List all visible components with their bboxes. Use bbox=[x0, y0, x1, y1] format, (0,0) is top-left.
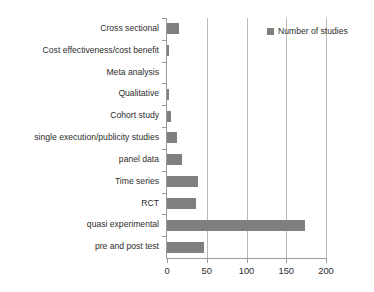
y-axis-tick-label: Cross sectional bbox=[100, 18, 159, 40]
x-axis-tick-label: 50 bbox=[202, 265, 212, 276]
x-axis-tick-label: 200 bbox=[318, 265, 334, 276]
legend-swatch-number-of-studies bbox=[267, 28, 274, 35]
bar-row bbox=[167, 40, 326, 62]
bar bbox=[167, 111, 171, 122]
plot-area bbox=[167, 18, 326, 258]
bar bbox=[167, 154, 182, 165]
y-axis-tick-label: panel data bbox=[119, 149, 159, 171]
y-axis-tick-labels: Cross sectionalCost effectiveness/cost b… bbox=[0, 18, 163, 258]
gridline bbox=[326, 18, 327, 258]
bar-row bbox=[167, 149, 326, 171]
y-axis-tick-label: quasi experimental bbox=[87, 214, 159, 236]
y-axis-tick-label: Qualitative bbox=[118, 83, 159, 105]
bar bbox=[167, 89, 169, 100]
bar-row bbox=[167, 127, 326, 149]
x-axis-tick-label: 150 bbox=[278, 265, 294, 276]
x-axis-tick-label: 0 bbox=[164, 265, 169, 276]
y-axis-tick-label: Cost effectiveness/cost benefit bbox=[43, 40, 159, 62]
y-axis-tick-label: single execution/publicity studies bbox=[34, 127, 159, 149]
y-axis-tick-label: Time series bbox=[115, 171, 159, 193]
x-axis-tick bbox=[207, 259, 208, 263]
legend: Number of studies bbox=[267, 26, 348, 36]
bar bbox=[167, 23, 179, 34]
bar-chart: Cross sectionalCost effectiveness/cost b… bbox=[0, 0, 374, 292]
y-axis-tick-label: pre and post test bbox=[95, 236, 159, 258]
bar-row bbox=[167, 193, 326, 215]
bar bbox=[167, 198, 196, 209]
bar bbox=[167, 45, 169, 56]
bar bbox=[167, 220, 305, 231]
bar bbox=[167, 242, 204, 253]
x-axis-tick bbox=[326, 259, 327, 263]
bar-row bbox=[167, 236, 326, 258]
bar-row bbox=[167, 62, 326, 84]
bar-row bbox=[167, 105, 326, 127]
bar bbox=[167, 132, 177, 143]
x-axis-tick bbox=[167, 259, 168, 263]
bar-row bbox=[167, 83, 326, 105]
bar-row bbox=[167, 214, 326, 236]
x-axis-tick bbox=[286, 259, 287, 263]
y-axis-tick-label: RCT bbox=[141, 193, 159, 215]
bar bbox=[167, 176, 198, 187]
bar-row bbox=[167, 171, 326, 193]
x-axis-tick bbox=[247, 259, 248, 263]
y-axis-tick-label: Cohort study bbox=[110, 105, 159, 127]
x-axis-tick-label: 100 bbox=[239, 265, 255, 276]
legend-label-number-of-studies: Number of studies bbox=[278, 26, 348, 36]
y-axis-tick-label: Meta analysis bbox=[106, 62, 159, 84]
